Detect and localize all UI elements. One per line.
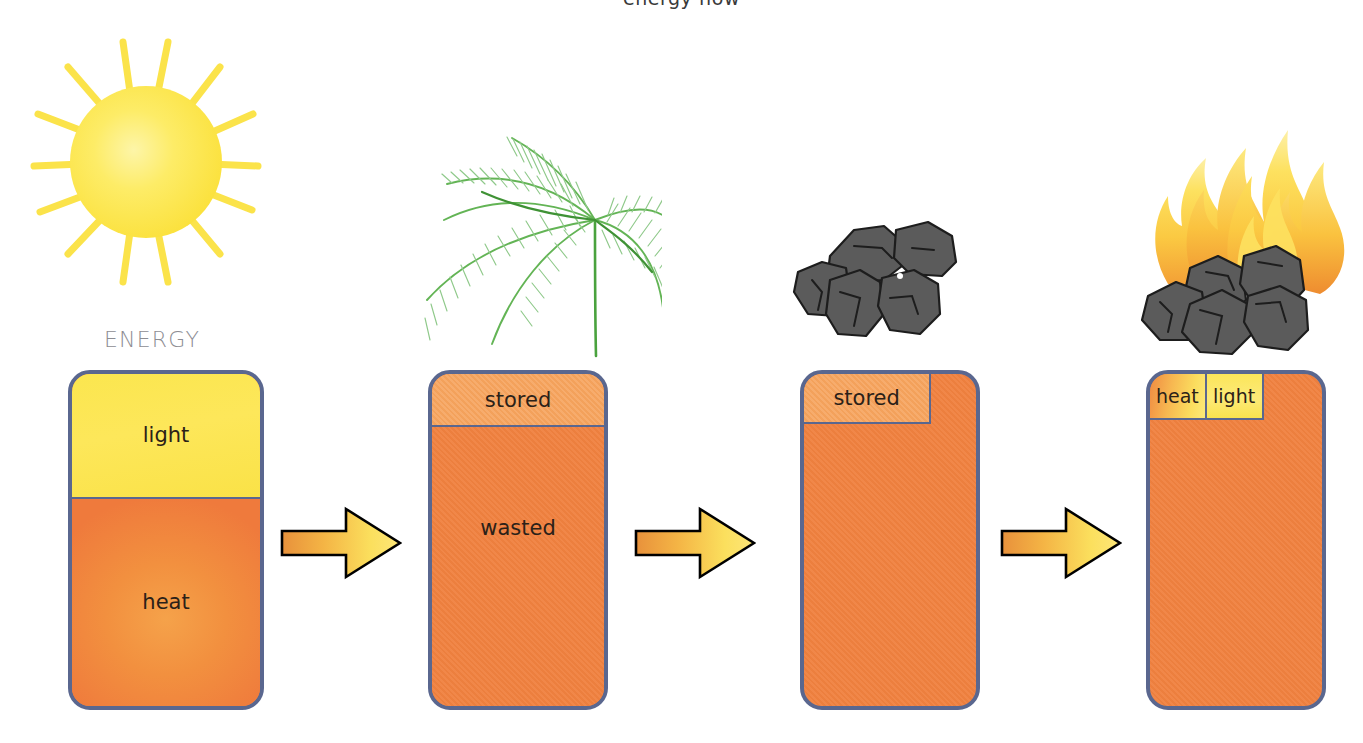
segment-label-light: light (1213, 385, 1255, 407)
segment-label-light: light (143, 423, 190, 447)
arrow-sun-to-plant (280, 503, 402, 583)
segment-label-heat: heat (142, 590, 189, 614)
diagram-canvas: energy flow (0, 0, 1363, 743)
segment-fire-heat: heat (1150, 374, 1207, 420)
arrow-plant-to-coal (634, 503, 756, 583)
bar-plant[interactable]: stored wasted (428, 370, 608, 710)
energy-caption: ENERGY (104, 327, 200, 352)
plant-icon (352, 112, 662, 362)
segment-sun-light: light (72, 374, 260, 499)
page-title: energy flow (0, 0, 1363, 9)
segment-plant-wasted: wasted (432, 427, 604, 706)
segment-sun-heat: heat (72, 499, 260, 707)
segment-label-stored: stored (833, 386, 899, 410)
segment-fire-light: light (1207, 374, 1264, 420)
bar-sun[interactable]: light heat (68, 370, 264, 710)
bar-burning-coal[interactable]: heat light (1146, 370, 1326, 710)
segment-label-stored: stored (485, 388, 551, 412)
segment-coal-stored: stored (804, 374, 931, 424)
segment-label-heat: heat (1156, 385, 1199, 407)
coal-icon (792, 218, 982, 358)
arrow-coal-to-fire (1000, 503, 1122, 583)
segment-plant-stored: stored (432, 374, 604, 427)
bar-coal[interactable]: stored (800, 370, 980, 710)
segment-label-wasted: wasted (480, 516, 555, 540)
fire-icon (1128, 104, 1353, 359)
sun-icon (10, 14, 290, 314)
